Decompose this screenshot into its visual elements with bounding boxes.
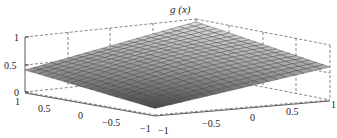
left-axis-tick-0: 0: [78, 111, 83, 121]
left-axis-tick-neg-1: −1: [140, 124, 151, 134]
left-axis-tick-neg-0-5: −0.5: [102, 118, 120, 128]
left-axis-tick-1: 1: [15, 97, 20, 107]
right-axis-tick-0: 0: [250, 113, 255, 123]
z-tick-1: 1: [14, 33, 19, 43]
right-axis-tick-neg-0-5: −0.5: [202, 119, 220, 129]
z-tick-0-5: 0.5: [4, 61, 17, 71]
surface-plot: [0, 0, 337, 138]
left-axis-tick-0-5: 0.5: [38, 104, 51, 114]
right-axis-tick-neg-1: −1: [158, 126, 169, 136]
surface-mesh: [25, 22, 330, 109]
right-axis-tick-0-5: 0.5: [286, 107, 299, 117]
right-axis-tick-1: 1: [331, 100, 336, 110]
